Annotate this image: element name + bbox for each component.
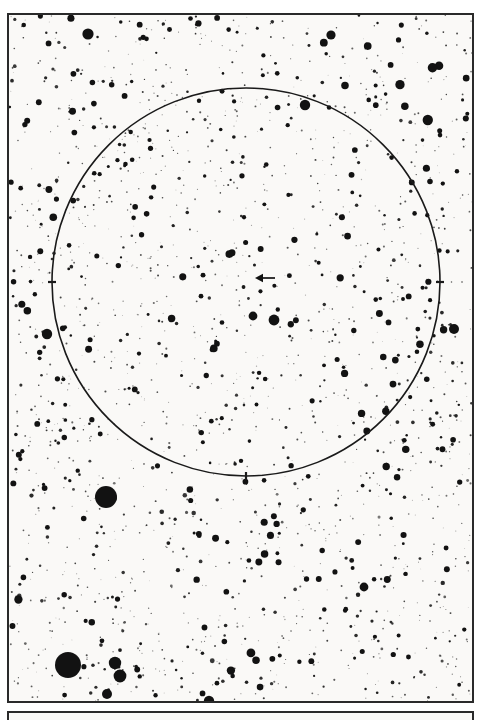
chart-alt-text: Black-and-white photographic star chart.… bbox=[0, 0, 1, 1]
finder-chart-root: Black-and-white photographic star chart.… bbox=[0, 0, 489, 720]
star-field-image bbox=[9, 15, 472, 701]
secondary-plate-frame bbox=[7, 711, 474, 720]
plate-frame bbox=[7, 13, 474, 703]
chart-title: Star field finder chart bbox=[0, 0, 1, 1]
